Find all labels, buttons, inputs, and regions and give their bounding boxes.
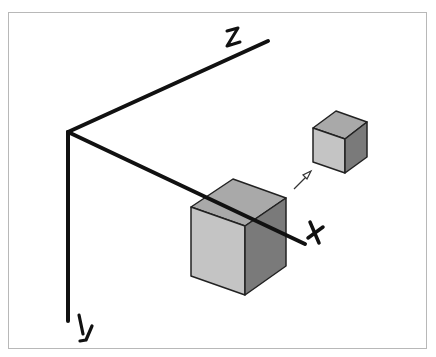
axes (68, 41, 305, 321)
small-cube (313, 111, 367, 173)
translation-arrow (294, 171, 311, 189)
z-axis-label (227, 28, 240, 46)
x-axis (68, 132, 305, 244)
x-axis-label (308, 222, 323, 243)
coordinate-diagram (0, 0, 436, 357)
y-axis-label (79, 315, 92, 341)
arrowhead-icon (303, 171, 311, 179)
z-axis (68, 41, 268, 132)
